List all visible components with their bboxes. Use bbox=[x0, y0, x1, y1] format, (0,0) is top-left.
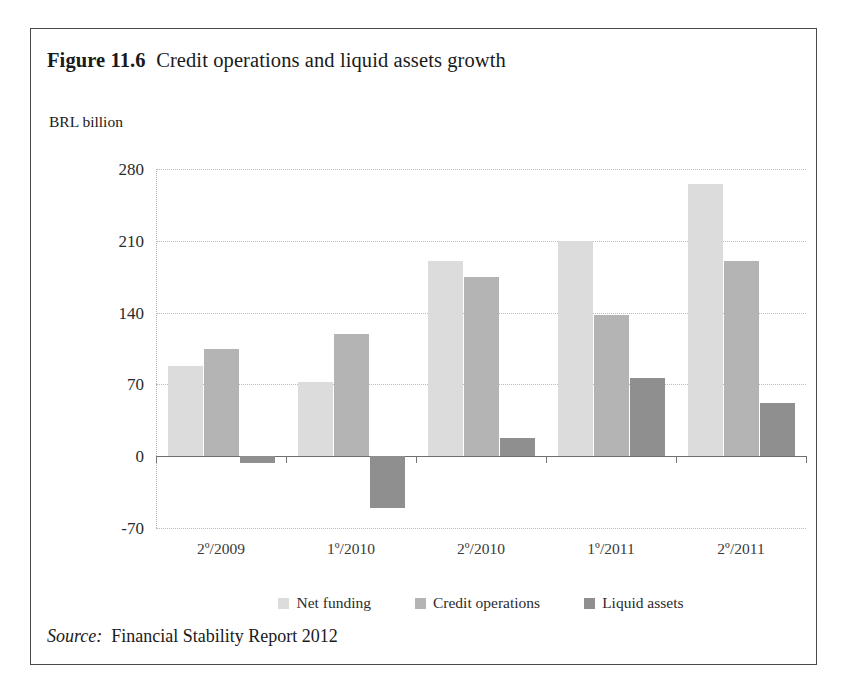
bar bbox=[370, 456, 405, 507]
bar-group: 1º/2010 bbox=[286, 169, 416, 528]
bar bbox=[724, 261, 759, 456]
x-category-label: 1º/2010 bbox=[327, 540, 375, 558]
x-axis-tick bbox=[156, 456, 157, 463]
source-line: Source: Financial Stability Report 2012 bbox=[47, 626, 338, 647]
bar bbox=[334, 334, 369, 456]
x-axis-tick bbox=[806, 456, 807, 463]
bar bbox=[428, 261, 463, 456]
bar-group: 1º/2011 bbox=[546, 169, 676, 528]
x-axis-tick bbox=[546, 456, 547, 463]
figure-card: Figure 11.6 Credit operations and liquid… bbox=[30, 28, 817, 665]
bar bbox=[500, 438, 535, 456]
y-tick-label: 0 bbox=[136, 447, 145, 467]
plot-wrapper: 280210140700-70 2º/20091º/20102º/20101º/… bbox=[31, 29, 816, 664]
x-category-label: 1º/2011 bbox=[587, 540, 634, 558]
chart-legend: Net fundingCredit operationsLiquid asset… bbox=[156, 594, 806, 612]
y-tick-label: 70 bbox=[127, 375, 144, 395]
y-tick-label: 280 bbox=[119, 160, 145, 180]
x-category-label: 2º/2009 bbox=[197, 540, 245, 558]
plot-area: 280210140700-70 2º/20091º/20102º/20101º/… bbox=[156, 169, 806, 528]
legend-item: Credit operations bbox=[415, 594, 540, 612]
bar bbox=[760, 403, 795, 456]
legend-swatch-icon bbox=[584, 598, 595, 609]
bar bbox=[688, 184, 723, 456]
bar bbox=[204, 349, 239, 457]
source-label: Source: bbox=[47, 626, 102, 646]
bar bbox=[558, 241, 593, 456]
legend-label: Liquid assets bbox=[602, 594, 683, 612]
bar bbox=[240, 456, 275, 463]
x-category-label: 2º/2010 bbox=[457, 540, 505, 558]
bar bbox=[464, 277, 499, 457]
legend-swatch-icon bbox=[415, 598, 426, 609]
bar bbox=[168, 366, 203, 456]
legend-label: Net funding bbox=[296, 594, 370, 612]
legend-swatch-icon bbox=[278, 598, 289, 609]
bar-group: 2º/2009 bbox=[156, 169, 286, 528]
x-category-label: 2º/2011 bbox=[717, 540, 764, 558]
legend-label: Credit operations bbox=[433, 594, 540, 612]
x-axis-tick bbox=[676, 456, 677, 463]
bar-group: 2º/2011 bbox=[676, 169, 806, 528]
source-text: Financial Stability Report 2012 bbox=[111, 626, 337, 646]
legend-item: Net funding bbox=[278, 594, 370, 612]
x-axis-tick bbox=[286, 456, 287, 463]
legend-item: Liquid assets bbox=[584, 594, 683, 612]
bars-layer: 2º/20091º/20102º/20101º/20112º/2011 bbox=[156, 169, 806, 528]
bar bbox=[298, 382, 333, 456]
y-tick-label: -70 bbox=[121, 519, 144, 539]
y-tick-label: 210 bbox=[119, 232, 145, 252]
bar bbox=[594, 315, 629, 457]
y-tick-label: 140 bbox=[119, 304, 145, 324]
x-axis-tick bbox=[416, 456, 417, 463]
bar-group: 2º/2010 bbox=[416, 169, 546, 528]
gridline--70: -70 bbox=[156, 528, 806, 529]
bar bbox=[630, 378, 665, 456]
